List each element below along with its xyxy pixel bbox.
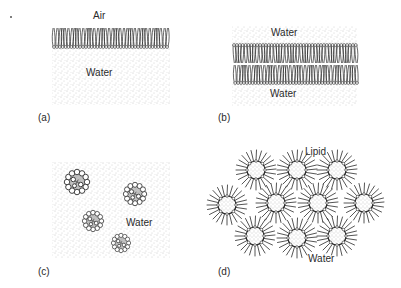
reverse-micelle bbox=[207, 185, 247, 225]
panel-label-a: (a) bbox=[38, 113, 50, 123]
reverse-micelle bbox=[317, 216, 357, 256]
panel-label-b: (b) bbox=[218, 113, 230, 123]
label-water-d: Water bbox=[308, 254, 334, 264]
label-lipid: Lipid bbox=[305, 147, 326, 157]
label-air: Air bbox=[93, 11, 105, 21]
reverse-micelle bbox=[277, 218, 317, 258]
reverse-micelle bbox=[236, 150, 276, 190]
panel-d bbox=[207, 150, 384, 258]
reverse-micelle bbox=[344, 183, 384, 223]
lipid-monolayer bbox=[52, 28, 169, 48]
label-water-b-bottom: Water bbox=[270, 89, 296, 99]
reverse-micelle bbox=[235, 216, 275, 256]
label-water-c: Water bbox=[126, 218, 152, 228]
panel-c bbox=[52, 162, 170, 258]
stray-mark bbox=[10, 16, 12, 18]
label-water-b-top: Water bbox=[271, 28, 297, 38]
reverse-micelle bbox=[256, 183, 296, 223]
label-water-a: Water bbox=[86, 68, 112, 78]
lipid-phases-diagram bbox=[0, 0, 401, 288]
panel-label-c: (c) bbox=[38, 267, 50, 277]
panel-label-d: (d) bbox=[218, 267, 230, 277]
